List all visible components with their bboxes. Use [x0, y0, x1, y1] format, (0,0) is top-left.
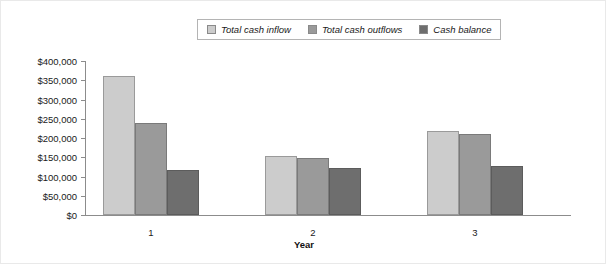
x-axis-line	[85, 215, 571, 216]
legend-swatch-icon	[308, 25, 317, 34]
bar-1-series-3	[167, 170, 199, 215]
legend-item-cash-balance: Cash balance	[419, 25, 491, 35]
legend-swatch-icon	[207, 25, 216, 34]
chart-page: Total cash inflow Total cash outflows Ca…	[0, 0, 606, 264]
y-axis-tick-label: $0	[66, 210, 77, 221]
y-axis-tick-label: $250,000	[37, 113, 77, 124]
legend-item-total-cash-inflow: Total cash inflow	[207, 25, 291, 35]
y-axis-tick	[81, 100, 85, 101]
bar-1-series-1	[103, 76, 135, 215]
y-axis-line	[85, 61, 86, 216]
y-axis-tick	[81, 157, 85, 158]
bar-3-series-2	[459, 134, 491, 215]
y-axis-tick	[81, 119, 85, 120]
y-axis-tick-label: $300,000	[37, 94, 77, 105]
bar-3-series-1	[427, 131, 459, 215]
y-axis-tick-label: $50,000	[43, 190, 77, 201]
y-axis-tick	[81, 138, 85, 139]
x-axis-label-1: 1	[148, 227, 153, 238]
y-axis-tick-label: $200,000	[37, 133, 77, 144]
x-axis-label-2: 2	[310, 227, 315, 238]
y-axis-tick-label: $150,000	[37, 152, 77, 163]
bar-1-series-2	[135, 123, 167, 215]
legend-label: Cash balance	[433, 25, 491, 35]
y-axis-tick-label: $400,000	[37, 56, 77, 67]
y-axis-tick	[81, 196, 85, 197]
y-axis-tick	[81, 215, 85, 216]
legend-label: Total cash outflows	[322, 25, 402, 35]
chart-legend: Total cash inflow Total cash outflows Ca…	[197, 19, 501, 40]
x-axis-label-3: 3	[472, 227, 477, 238]
plot-area: $0$50,000$100,000$150,000$200,000$250,00…	[85, 61, 571, 215]
bar-2-series-3	[329, 168, 361, 215]
legend-swatch-icon	[419, 25, 428, 34]
y-axis-tick-label: $350,000	[37, 75, 77, 86]
legend-item-total-cash-outflows: Total cash outflows	[308, 25, 402, 35]
bar-3-series-3	[491, 166, 523, 215]
y-axis-tick	[81, 177, 85, 178]
bar-2-series-2	[297, 158, 329, 215]
y-axis-tick-label: $100,000	[37, 171, 77, 182]
y-axis-tick	[81, 61, 85, 62]
legend-label: Total cash inflow	[221, 25, 291, 35]
y-axis-tick	[81, 80, 85, 81]
x-axis-title: Year	[1, 239, 606, 250]
bar-2-series-1	[265, 156, 297, 215]
